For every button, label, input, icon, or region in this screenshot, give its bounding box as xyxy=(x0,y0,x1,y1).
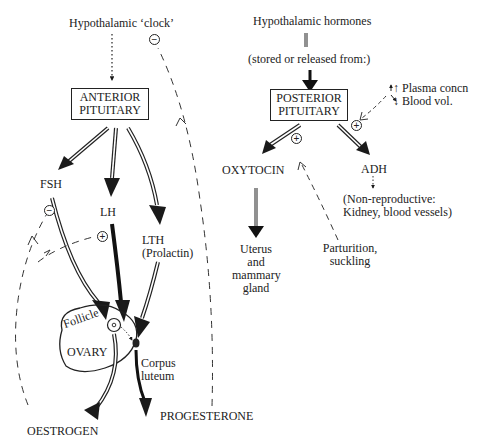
hypothalamic-hormones-label: Hypothalamic hormones xyxy=(253,15,371,28)
diagram-arrows xyxy=(0,0,481,447)
lh-arrow xyxy=(104,128,120,197)
fsh-inhibit-sign: − xyxy=(44,205,55,216)
corpus-luteum-label: Corpus luteum xyxy=(141,357,176,383)
oxytocin-stimulate-sign: + xyxy=(291,133,302,144)
adh-stimulate-sign: + xyxy=(351,120,362,131)
posterior-line2: PITUITARY xyxy=(275,105,343,118)
oxytocin-label: OXYTOCIN xyxy=(222,164,284,177)
parturition-feedback-line xyxy=(302,165,338,240)
hypothalamic-clock-label: Hypothalamic ‘clock’ xyxy=(69,17,174,30)
posterior-pituitary-box: POSTERIOR PITUITARY xyxy=(270,89,348,121)
oestrogen-feedback-line xyxy=(16,212,48,405)
fsh-arrow xyxy=(58,128,108,170)
adh-target-label: (Non-reproductive: Kidney, blood vessels… xyxy=(343,193,452,219)
oxytocin-target-arrow xyxy=(248,188,264,238)
follicle-circle xyxy=(108,319,121,332)
oestrogen-label: OESTROGEN xyxy=(27,425,98,438)
lh-label: LH xyxy=(100,206,116,219)
corpus-luteum-dot xyxy=(133,339,140,348)
fsh-label: FSH xyxy=(40,178,62,191)
progesterone-label: PROGESTERONE xyxy=(160,410,253,423)
clock-inhibit-sign: − xyxy=(149,34,160,45)
lh-stimulate-sign: + xyxy=(97,231,108,242)
lth-arrow xyxy=(128,128,166,225)
progesterone-feedback-line xyxy=(158,48,213,406)
plasma-stimulus-label: ↑ Plasma concn ↓ Blood vol. xyxy=(393,82,468,108)
anterior-line2: PITUITARY xyxy=(76,104,144,117)
anterior-pituitary-box: ANTERIOR PITUITARY xyxy=(71,88,149,120)
adh-label: ADH xyxy=(361,163,387,176)
parturition-label: Parturition, suckling xyxy=(318,242,382,268)
stored-released-label: (stored or released from:) xyxy=(248,53,370,66)
oxytocin-target-label: Uterus and mammary gland xyxy=(232,243,280,295)
lth-ovary-arrow xyxy=(134,262,158,338)
lth-label: LTH (Prolactin) xyxy=(142,234,193,260)
ovary-label: OVARY xyxy=(67,346,107,359)
